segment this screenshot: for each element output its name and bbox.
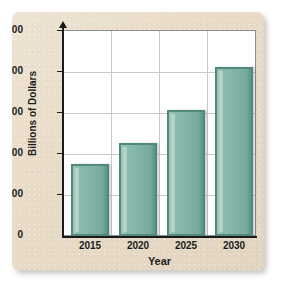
bar-highlight	[219, 71, 223, 232]
chart-panel: 1000 800 600 400 200 0 2015 2020 2025 20…	[12, 12, 264, 270]
bar-2015	[71, 164, 109, 236]
gridline-vertical-1	[111, 31, 112, 235]
y-tick-label-800: 800	[12, 65, 23, 76]
y-tick-200	[57, 194, 63, 195]
y-tick-label-200: 200	[12, 188, 23, 199]
bar-highlight	[171, 114, 175, 232]
bar-2025	[167, 110, 205, 236]
x-tick-label-2020: 2020	[113, 240, 163, 251]
x-axis-title: Year	[63, 255, 256, 267]
y-tick-label-600: 600	[12, 106, 23, 117]
y-tick-1000	[57, 30, 63, 31]
bar-highlight	[123, 147, 127, 232]
y-tick-400	[57, 153, 63, 154]
y-tick-label-400: 400	[12, 147, 23, 158]
x-tick-label-2030: 2030	[209, 240, 259, 251]
y-tick-label-0: 0	[17, 229, 23, 240]
x-tick-label-2015: 2015	[65, 240, 115, 251]
figure-root: 1000 800 600 400 200 0 2015 2020 2025 20…	[0, 0, 284, 292]
y-tick-600	[57, 112, 63, 113]
x-axis-line	[62, 236, 257, 238]
y-tick-800	[57, 71, 63, 72]
gridline-vertical-3	[207, 31, 208, 235]
y-axis-line	[62, 26, 64, 238]
gridline-vertical-2	[159, 31, 160, 235]
y-axis-arrow-icon	[59, 21, 67, 28]
bar-highlight	[75, 168, 79, 232]
y-tick-label-1000: 1000	[12, 24, 23, 35]
bar-2030	[215, 67, 253, 236]
x-tick-label-2025: 2025	[161, 240, 211, 251]
bar-2020	[119, 143, 157, 236]
y-axis-title: Billions of Dollars	[27, 54, 38, 174]
